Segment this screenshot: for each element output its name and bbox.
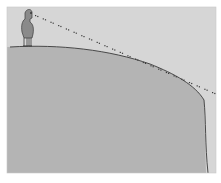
- sight-dot: [137, 59, 138, 60]
- illustration: [0, 0, 221, 183]
- sight-dot: [68, 29, 69, 30]
- sight-dot: [53, 23, 54, 24]
- sight-dot: [58, 25, 59, 26]
- sight-dot: [97, 42, 98, 43]
- sight-dot: [35, 15, 36, 16]
- sight-dot: [183, 80, 184, 81]
- sight-dot: [199, 86, 200, 87]
- sight-dot: [153, 66, 154, 67]
- sight-dot: [104, 45, 105, 46]
- sight-dot: [66, 28, 67, 29]
- sight-dot: [120, 52, 121, 53]
- sight-dot: [81, 35, 82, 36]
- sight-dot: [160, 70, 161, 71]
- sight-dot: [112, 49, 113, 50]
- sight-dot: [191, 83, 192, 84]
- sight-dot: [166, 72, 167, 73]
- sight-dot: [60, 26, 61, 27]
- sight-dot: [204, 89, 205, 90]
- sight-dot: [89, 38, 90, 39]
- sight-dot: [176, 76, 177, 77]
- sight-dot: [214, 93, 215, 94]
- sight-dot: [74, 32, 75, 33]
- sight-dot: [143, 62, 144, 63]
- sight-dot: [212, 92, 213, 93]
- sight-dot: [50, 22, 51, 23]
- sight-dot: [150, 65, 151, 66]
- sight-dot: [76, 33, 77, 34]
- sight-dot: [207, 90, 208, 91]
- sight-dot: [145, 63, 146, 64]
- sight-dot: [174, 75, 175, 76]
- sight-dot: [158, 69, 159, 70]
- sight-dot: [197, 85, 198, 86]
- sight-dot: [99, 43, 100, 44]
- sight-dot: [181, 79, 182, 80]
- sight-dot: [168, 73, 169, 74]
- sight-dot: [122, 53, 123, 54]
- sight-dot: [127, 55, 128, 56]
- sight-dot: [91, 39, 92, 40]
- sight-dot: [114, 49, 115, 50]
- sight-dot: [130, 56, 131, 57]
- sight-dot: [135, 59, 136, 60]
- sight-dot: [45, 19, 46, 20]
- sight-dot: [37, 16, 38, 17]
- sight-dot: [43, 18, 44, 19]
- sight-dot: [107, 46, 108, 47]
- sight-dot: [189, 82, 190, 83]
- sight-dot: [83, 36, 84, 37]
